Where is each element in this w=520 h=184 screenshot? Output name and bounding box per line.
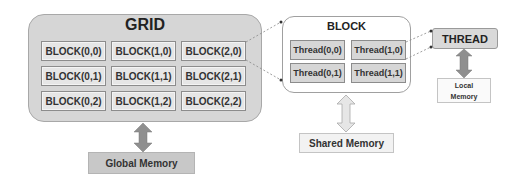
zoom-lines-block-to-thread [406,31,431,59]
connectors-overlay [0,0,520,184]
double-arrow-icon [456,49,472,78]
double-arrow-icon [134,123,152,152]
zoom-lines-grid-to-block [246,22,281,80]
double-arrow-icon [337,95,355,132]
